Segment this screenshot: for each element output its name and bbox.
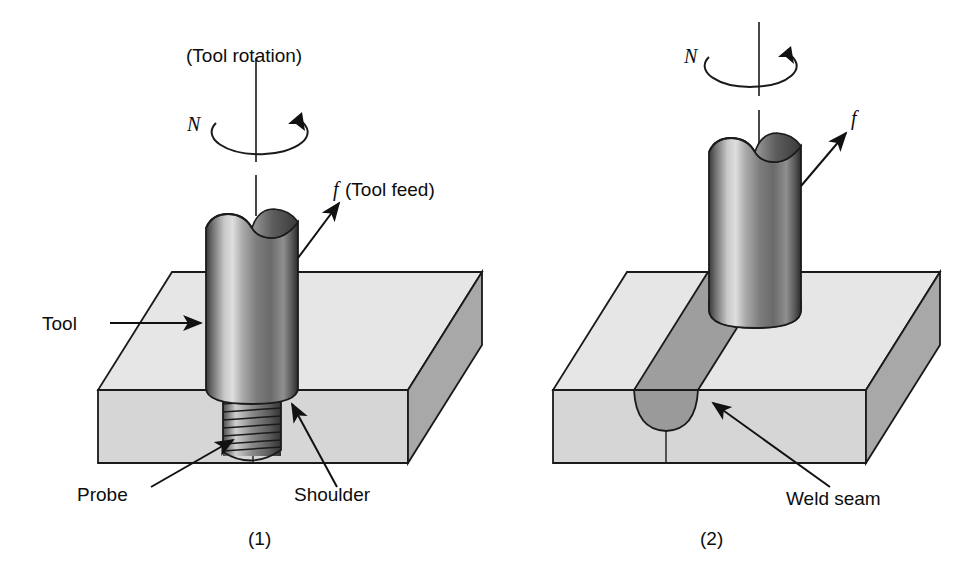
panel-1: N (Tool rotation) <box>42 45 482 549</box>
rotation-arc <box>212 121 308 154</box>
workpiece-front-face-2 <box>553 390 866 463</box>
tool-rotation-label: (Tool rotation) <box>186 45 302 66</box>
rotation-arc-2 <box>705 55 797 87</box>
feed-arrow-line-2 <box>801 133 846 186</box>
tool-label: Tool <box>42 313 77 334</box>
feed-text-label: (Tool feed) <box>345 179 435 200</box>
tool-cylinder <box>206 209 298 404</box>
panel-2-caption: (2) <box>700 528 723 549</box>
rotation-symbol-label-2: N <box>683 45 699 67</box>
panel-2: N f Weld seam (2) <box>553 22 940 549</box>
probe-label: Probe <box>77 484 128 505</box>
weld-seam-label: Weld seam <box>786 488 881 509</box>
feed-arrow-line <box>298 203 339 258</box>
rotation-arc-arrowhead <box>288 112 305 131</box>
panel-1-caption: (1) <box>248 528 271 549</box>
feed-symbol-label-2: f <box>851 107 859 130</box>
probe-threads <box>223 398 281 461</box>
tool-cylinder-2 <box>709 133 801 328</box>
shoulder-label: Shoulder <box>294 484 371 505</box>
fsw-diagram-svg: N (Tool rotation) <box>0 0 977 581</box>
rotation-arc-arrowhead-2 <box>778 46 794 64</box>
feed-symbol-label: f <box>333 178 341 201</box>
figure-canvas: N (Tool rotation) <box>0 0 977 581</box>
rotation-symbol-label: N <box>186 113 202 135</box>
